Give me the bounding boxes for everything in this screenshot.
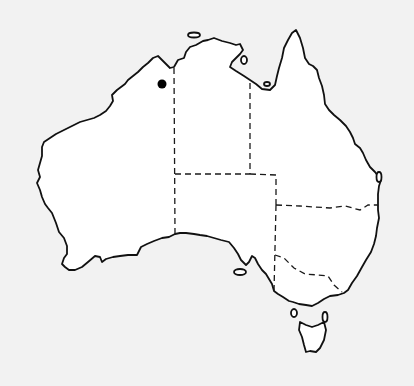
tasmania-outline [299, 322, 326, 352]
map-canvas [0, 0, 414, 386]
groote-eylandt [241, 56, 247, 64]
tiwi-islands [188, 33, 200, 38]
king-island [291, 309, 297, 317]
mainland-outline [37, 30, 381, 306]
flinders-island [323, 312, 328, 322]
australia-map: Australia outline with state borders [0, 0, 414, 386]
location-marker-dot [158, 80, 167, 89]
kangaroo-island [234, 269, 246, 275]
fraser-island [377, 172, 382, 182]
mornington-island [264, 82, 270, 86]
